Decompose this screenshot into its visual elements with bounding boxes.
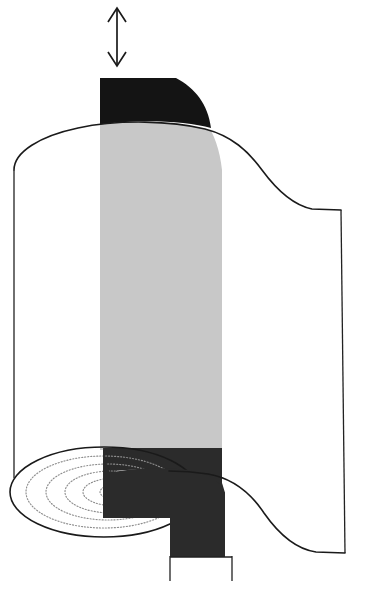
black-quarter-disc-cap <box>100 78 211 128</box>
gray-stripe-group <box>100 110 222 452</box>
diagram-canvas: Rolled sheet / roll-up diagram technical… <box>0 0 370 615</box>
vertical-double-headed-arrow <box>108 8 126 66</box>
rolled-sheet-diagram <box>0 0 370 615</box>
bottom-tab-group <box>170 556 232 581</box>
bottom-tab-rectangle <box>170 556 232 581</box>
top-cap-group <box>100 78 211 128</box>
gray-vertical-stripe <box>100 110 222 452</box>
